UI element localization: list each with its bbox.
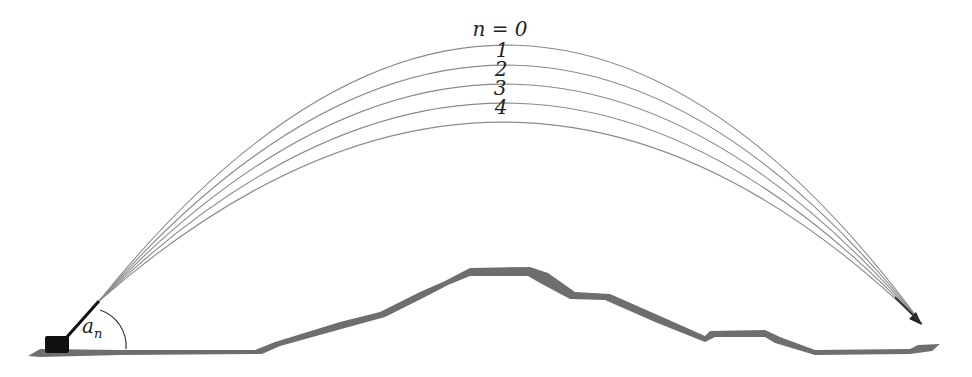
trajectory-label-n4: 4 <box>494 95 508 119</box>
trajectory-n3 <box>99 103 922 324</box>
trajectory-diagram: an n = 0 1 2 3 4 <box>0 0 972 377</box>
terrain-ground <box>28 267 940 357</box>
trajectory-n4 <box>99 122 922 324</box>
launcher-block <box>45 336 69 353</box>
angle-arc <box>100 310 126 349</box>
trajectories <box>99 45 922 324</box>
trajectory-n2 <box>99 84 922 324</box>
arrow-shaft <box>895 297 918 320</box>
trajectory-n0 <box>99 45 922 324</box>
angle-label: an <box>82 314 102 341</box>
trajectory-n1 <box>99 65 922 324</box>
